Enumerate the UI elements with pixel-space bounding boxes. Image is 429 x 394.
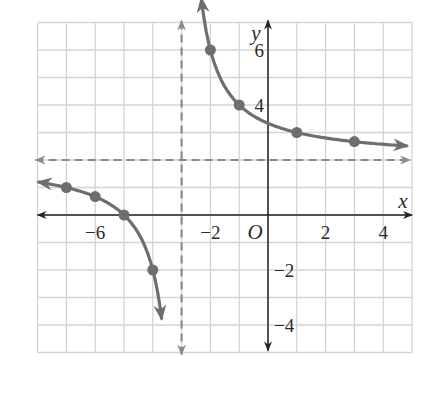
y-tick-label: −2 (274, 260, 294, 281)
data-point (119, 210, 130, 221)
hyperbola-graph: −6−22464−2−4Oxy (0, 0, 429, 394)
data-point (349, 136, 360, 147)
data-point (234, 100, 245, 111)
x-axis-label: x (397, 189, 408, 213)
x-tick-label: −6 (85, 222, 105, 243)
x-tick-label: 4 (378, 222, 388, 243)
origin-label: O (247, 220, 262, 244)
axes (38, 21, 412, 351)
left-branch-curve (38, 182, 162, 319)
y-tick-label: 4 (255, 95, 265, 116)
data-point (90, 191, 101, 202)
data-point (291, 127, 302, 138)
data-point (205, 45, 216, 56)
data-point (147, 265, 158, 276)
x-tick-label: 2 (321, 222, 331, 243)
x-tick-label: −2 (200, 222, 220, 243)
y-tick-label: −4 (274, 315, 295, 336)
y-axis-label: y (249, 21, 261, 45)
grid (38, 23, 412, 353)
tick-labels: −6−22464−2−4Oxy (85, 21, 408, 337)
data-point (61, 182, 72, 193)
